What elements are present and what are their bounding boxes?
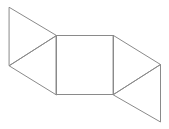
polyhedron-net-diagram <box>0 0 169 129</box>
left-upper-triangle <box>10 8 57 66</box>
right-lower-triangle <box>114 65 161 122</box>
center-square <box>57 36 114 95</box>
left-lower-triangle <box>10 36 57 95</box>
right-upper-triangle <box>114 36 161 95</box>
